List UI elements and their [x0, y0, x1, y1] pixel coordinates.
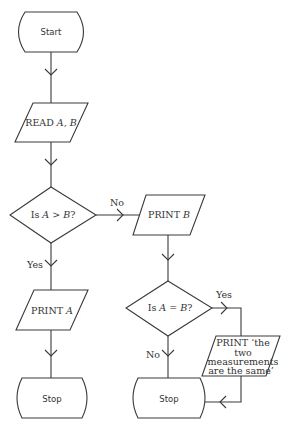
edge-label-no: No: [146, 349, 160, 360]
decision-a-equals-b: Is A = B?: [126, 281, 212, 336]
start-node: Start: [19, 12, 84, 52]
print-b-node: PRINT B: [133, 195, 205, 235]
print-a-label: PRINT A: [31, 305, 73, 316]
print-same-line-4: are the same’: [208, 365, 274, 376]
edge-label-yes: Yes: [215, 289, 232, 300]
stop-right-label: Stop: [159, 394, 178, 404]
stop-node-left: Stop: [17, 378, 87, 418]
flowchart: Start READ A, B Is A > B? No Yes PRINT B…: [0, 0, 290, 430]
stop-left-label: Stop: [42, 394, 61, 404]
decision-1-label: Is A > B?: [31, 209, 76, 220]
print-a-node: PRINT A: [16, 290, 88, 330]
decision-2-label: Is A = B?: [148, 302, 193, 313]
stop-node-right: Stop: [133, 378, 205, 418]
read-label: READ A, B: [25, 117, 76, 128]
edge-printSame-stop2: [205, 376, 241, 402]
print-b-label: PRINT B: [148, 209, 190, 220]
print-same-node: PRINT ‘the two measurements are the same…: [202, 336, 280, 376]
read-node: READ A, B: [15, 103, 88, 142]
edge-label-yes: Yes: [26, 259, 43, 270]
edge-label-no: No: [110, 197, 124, 208]
edge-dec2-printSame: [212, 308, 241, 336]
decision-a-greater-b: Is A > B?: [10, 187, 96, 243]
start-label: Start: [41, 27, 62, 37]
